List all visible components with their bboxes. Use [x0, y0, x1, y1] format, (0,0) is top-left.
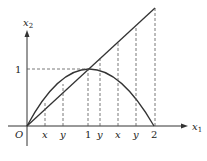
tick-x-left: x	[42, 129, 48, 140]
tick-y-left: y	[59, 129, 66, 140]
x-axis-label: x1	[192, 121, 202, 134]
x-axis-arrow	[181, 124, 188, 129]
tick-x-right: x	[115, 129, 121, 140]
tick-y-right2: y	[132, 129, 139, 140]
origin-label: O	[15, 129, 23, 140]
tick-1: 1	[85, 129, 91, 140]
parabola-curve	[27, 69, 154, 126]
tick-y-1: 1	[15, 64, 21, 75]
diagram-canvas: O x y 1 y x y 2 1 x1 x2	[0, 0, 207, 161]
tick-y-right1: y	[96, 129, 103, 140]
y-axis-label: x2	[23, 17, 33, 30]
y-axis-arrow	[25, 30, 30, 37]
tick-2: 2	[151, 129, 157, 140]
